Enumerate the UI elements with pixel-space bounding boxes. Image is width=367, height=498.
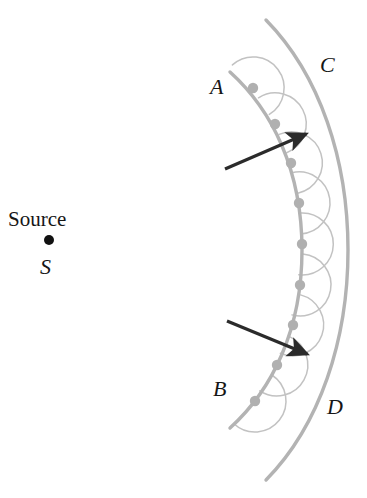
secondary-source-dot	[294, 198, 304, 208]
secondary-source-dot	[248, 83, 258, 93]
secondary-source-dots-group	[248, 83, 307, 406]
secondary-source-dot	[297, 239, 307, 249]
wavefront-label-a: A	[210, 76, 223, 98]
wavefront-label-d: D	[327, 396, 343, 418]
source-point-label: S	[40, 256, 51, 278]
secondary-source-dot	[250, 396, 260, 406]
source-point-dot	[44, 235, 54, 245]
secondary-source-dot	[295, 280, 305, 290]
source-label: Source	[8, 209, 66, 230]
wavefront-label-b: B	[213, 378, 226, 400]
secondary-source-dot	[270, 119, 280, 129]
wavefront-label-c: C	[320, 54, 335, 76]
secondary-source-dot	[288, 320, 298, 330]
wavefront-canvas	[0, 0, 367, 498]
secondary-source-dot	[272, 360, 282, 370]
secondary-wavelets-group	[232, 57, 333, 432]
huygens-principle-diagram: Source S A B C D	[0, 0, 367, 498]
wavefront-ab-arc	[230, 72, 302, 428]
secondary-wavelet-arc	[234, 375, 286, 432]
secondary-source-dot	[286, 158, 296, 168]
